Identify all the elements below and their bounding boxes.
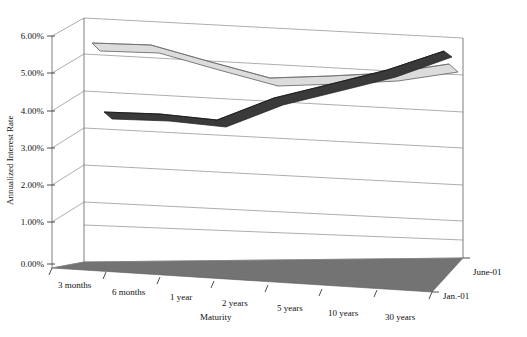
xtick-3-months: 3 months bbox=[58, 280, 92, 290]
series-label-jan-01: Jan.-01 bbox=[443, 291, 469, 301]
x-axis-title: Maturity bbox=[200, 312, 232, 322]
series-label-june-01: June-01 bbox=[473, 267, 502, 277]
xtick-2-years: 2 years bbox=[222, 298, 248, 308]
left-wall bbox=[52, 18, 84, 268]
ytick-4: 4.00% bbox=[21, 106, 45, 116]
xtick-1-year: 1 year bbox=[170, 292, 192, 302]
chart-container: 6.00% 5.00% 4.00% 3.00% 2.00% 1.00% 0.00… bbox=[0, 0, 527, 337]
ytick-0: 0.00% bbox=[21, 259, 45, 269]
xtick-10-years: 10 years bbox=[328, 308, 359, 318]
ytick-1: 1.00% bbox=[21, 217, 45, 227]
xtick-30-years: 30 years bbox=[385, 312, 416, 322]
ytick-2: 2.00% bbox=[21, 180, 45, 190]
xtick-5-years: 5 years bbox=[277, 303, 303, 313]
ytick-5: 5.00% bbox=[21, 68, 45, 78]
ytick-3: 3.00% bbox=[21, 143, 45, 153]
interest-rate-3d-line-chart: 6.00% 5.00% 4.00% 3.00% 2.00% 1.00% 0.00… bbox=[0, 0, 527, 337]
y-axis-title: Annualized Interest Rate bbox=[5, 116, 15, 205]
back-wall bbox=[84, 18, 463, 262]
xtick-6-months: 6 months bbox=[112, 287, 146, 297]
ytick-6: 6.00% bbox=[21, 31, 45, 41]
